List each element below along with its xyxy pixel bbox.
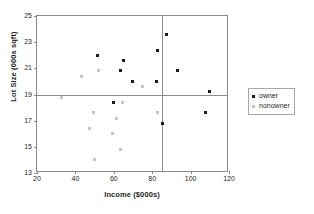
x-axis-tick-mark <box>191 171 192 174</box>
legend-item-label: owner <box>259 92 278 100</box>
chart-legend: ownernonowner <box>248 88 295 115</box>
x-axis-tick-label: 40 <box>71 175 79 183</box>
y-axis-tick-mark <box>34 95 37 96</box>
data-point-nonowner <box>80 75 83 78</box>
data-point-owner <box>131 80 134 83</box>
x-axis-tick-label: 120 <box>223 175 235 183</box>
data-point-nonowner <box>111 132 114 135</box>
data-point-owner <box>176 69 179 72</box>
y-axis-tick-mark <box>34 68 37 69</box>
x-axis-tick-mark <box>37 171 38 174</box>
y-axis-tick-label: 23 <box>24 38 32 46</box>
legend-item-owner[interactable]: owner <box>252 91 290 101</box>
data-point-nonowner <box>97 69 100 72</box>
y-axis-tick-label: 15 <box>24 143 32 151</box>
data-point-nonowner <box>119 148 122 151</box>
data-point-nonowner <box>60 96 63 99</box>
y-axis-tick-label: 19 <box>24 91 32 99</box>
x-axis-tick-mark <box>152 171 153 174</box>
y-axis-tick-mark <box>34 147 37 148</box>
y-axis-tick-mark <box>34 42 37 43</box>
y-axis-title: Lot Size (000s sqft) <box>9 12 18 122</box>
x-axis-tick-mark <box>114 171 115 174</box>
vertical-reference-line <box>162 16 163 171</box>
data-point-nonowner <box>141 85 144 88</box>
x-axis-tick-label: 100 <box>185 175 197 183</box>
data-point-owner <box>204 111 207 114</box>
data-point-owner <box>161 122 164 125</box>
x-axis-tick-mark <box>75 171 76 174</box>
data-point-owner <box>156 49 159 52</box>
y-axis-tick-mark <box>34 16 37 17</box>
data-point-nonowner <box>121 101 124 104</box>
y-axis-tick-label: 17 <box>24 117 32 125</box>
data-point-owner <box>165 33 168 36</box>
legend-item-label: nonowner <box>259 102 290 110</box>
data-point-owner <box>122 59 125 62</box>
horizontal-reference-line <box>37 95 227 96</box>
data-point-nonowner <box>92 111 95 114</box>
x-axis-tick-mark <box>229 171 230 174</box>
x-axis-title: Income ($000s) <box>36 190 228 199</box>
x-axis-tick-label: 60 <box>110 175 118 183</box>
scatter-chart-figure: 1315171921232520406080100120 Lot Size (0… <box>0 0 314 214</box>
data-point-nonowner <box>156 111 159 114</box>
data-point-nonowner <box>93 158 96 161</box>
data-point-nonowner <box>88 127 91 130</box>
x-axis-tick-label: 20 <box>33 175 41 183</box>
y-axis-tick-label: 25 <box>24 12 32 20</box>
y-axis-tick-label: 13 <box>24 169 32 177</box>
legend-marker-icon <box>252 95 255 98</box>
data-point-owner <box>208 90 211 93</box>
y-axis-tick-mark <box>34 121 37 122</box>
data-point-owner <box>112 101 115 104</box>
legend-item-nonowner[interactable]: nonowner <box>252 101 290 111</box>
y-axis-tick-label: 21 <box>24 64 32 72</box>
data-point-owner <box>119 69 122 72</box>
data-point-nonowner <box>115 117 118 120</box>
data-point-owner <box>96 54 99 57</box>
legend-marker-icon <box>252 105 255 108</box>
plot-area: 1315171921232520406080100120 <box>36 15 228 172</box>
data-point-owner <box>155 80 158 83</box>
x-axis-tick-label: 80 <box>148 175 156 183</box>
